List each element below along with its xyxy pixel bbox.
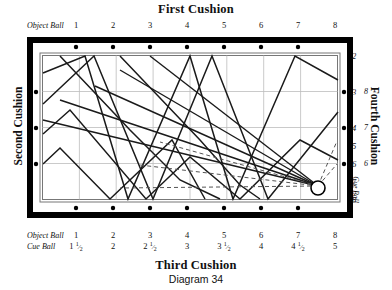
right-scale-value-6: 7: [352, 177, 356, 187]
right-scale-value-4: 5: [352, 141, 356, 151]
right-scale-value-5: 6: [352, 159, 356, 169]
right-scale-value-1: 2: [352, 51, 356, 61]
right-scale-secondary-1: 8: [364, 87, 368, 96]
right-scale-secondary-3: 6: [364, 159, 368, 168]
cue-ball-marker: [311, 181, 325, 195]
right-scale-secondary-2: 7: [364, 123, 368, 132]
right-scale-value-2: 3: [352, 87, 356, 97]
right-scale-value-3: 4: [352, 123, 356, 133]
right-scale-value-7: 8: [352, 195, 356, 205]
billiard-table-diagram: [0, 0, 392, 290]
